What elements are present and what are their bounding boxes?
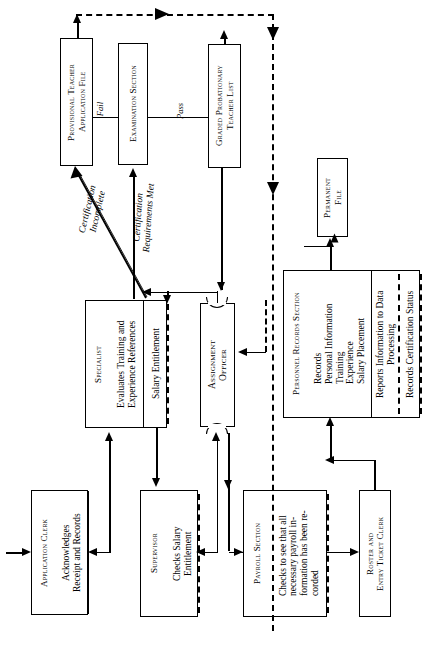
payroll-section-duty: Checks to see that all necessary payroll…	[270, 491, 328, 616]
examination-section-title: Examination Section	[119, 44, 147, 164]
node-personnel-records-section: Personnel Records Section Records Person…	[283, 270, 420, 418]
personnel-records-title: Personnel Records Section	[284, 271, 309, 417]
application-clerk-duty: Acknowledges Receipt and Records	[56, 491, 89, 614]
specialist-title: Specialist	[86, 301, 110, 427]
certification-incomplete-text: Certification Incomplete	[77, 184, 108, 236]
node-roster-and-entry-ticket-clerk: Roster and Entry Ticket Clerk	[359, 490, 391, 617]
edge-assignment-feedback-arrowhead	[142, 288, 151, 296]
personnel-records-duty-certification-status: Records Certification Status	[399, 271, 421, 417]
node-specialist: Specialist Evaluates Training and Experi…	[85, 300, 167, 428]
node-assignment-officer: Assignment Officer	[200, 303, 235, 427]
edge-records-to-permanent-file-vertical	[330, 246, 332, 271]
edge-assignment-to-records-horizontal	[245, 352, 266, 354]
edge-payroll-to-roster	[327, 552, 351, 554]
edge-records-into-permanent-file-arrowhead	[326, 238, 334, 247]
return-bus-arrowhead-mid	[267, 182, 279, 195]
return-bus-top-arrowhead	[155, 8, 169, 20]
edge-specialist-to-examination-arrowhead	[129, 168, 137, 177]
edge-examination-fail-to-provisional	[93, 117, 119, 119]
edge-clerk-to-specialist-arrow-into-clerk	[88, 548, 97, 556]
edge-assignment-down-arrowhead	[224, 480, 232, 489]
application-clerk-title: Application Clerk	[32, 491, 56, 614]
edge-label-fail: Fail	[96, 102, 105, 116]
edge-assignment-feedback-horizontal	[148, 292, 218, 294]
assignment-officer-title: Assignment Officer	[201, 304, 234, 426]
edge-payroll-to-roster-arrowhead	[350, 548, 359, 556]
edge-roster-to-records-horizontal	[330, 460, 375, 462]
edge-clerk-to-specialist-arrowhead	[105, 432, 113, 441]
return-bus-arrowhead-upper	[267, 27, 279, 40]
personnel-records-duty-reports-information: Reports Information to Data Processing	[372, 271, 399, 417]
edge-supervisor-to-assignment-arrowhead	[212, 432, 220, 441]
return-bus-top-horizontal	[76, 14, 274, 16]
edge-graded-list-to-assignment	[221, 168, 223, 290]
node-supervisor: Supervisor Checks Salary Entitlement	[140, 490, 198, 617]
graded-list-title: Graded Probationary Teacher List	[209, 45, 240, 167]
edge-assignment-to-payroll-vertical	[228, 433, 230, 551]
personnel-records-duty-records: Records Personal Information Training Ex…	[309, 271, 372, 417]
edge-clerk-to-specialist-horizontal	[96, 552, 110, 554]
return-bus-right-vertical	[272, 14, 274, 631]
edge-entry-line	[6, 552, 23, 554]
edge-assignment-to-payroll-arrowhead	[234, 548, 243, 556]
edge-roster-to-records-vertical-right	[374, 460, 376, 491]
edge-specialist-to-examination	[133, 177, 135, 299]
node-payroll-section: Payroll Section Checks to see that all n…	[243, 490, 327, 617]
specialist-duty-evaluates-training: Evaluates Training and Experience Refere…	[110, 301, 144, 427]
edge-specialist-to-supervisor-arrowhead	[152, 478, 160, 487]
flowchart-canvas: Provisional Teacher Application File Exa…	[0, 0, 439, 645]
specialist-duty-salary-entitlement: Salary Entitlement	[144, 301, 168, 427]
supervisor-duty: Checks Salary Entitlement	[167, 491, 199, 616]
permanent-file-title: Permanent File	[318, 159, 347, 236]
node-graded-probationary-teacher-list: Graded Probationary Teacher List	[208, 44, 241, 168]
provisional-file-title: Provisional Teacher Application File	[61, 39, 92, 165]
supervisor-title: Supervisor	[141, 491, 167, 616]
edge-specialist-to-supervisor	[156, 428, 158, 480]
edge-supervisor-to-assignment-vertical	[217, 440, 219, 552]
edge-assignment-to-records-dashed-vertical	[265, 300, 267, 352]
edge-clerk-to-specialist-vertical	[109, 440, 111, 553]
edge-assignment-feedback-vertical	[217, 291, 219, 303]
node-examination-section: Examination Section	[118, 43, 148, 165]
edge-roster-to-records-arrowhead	[326, 417, 334, 426]
edge-roster-to-records-vertical-left	[330, 425, 332, 460]
edge-label-certification-requirements-met: Certification Requirements Met	[133, 183, 189, 295]
edge-supervisor-to-assignment-arrow-into-supervisor	[196, 548, 205, 556]
edge-assignment-to-records-arrowhead	[238, 348, 247, 356]
node-provisional-teacher-application-file: Provisional Teacher Application File	[60, 38, 93, 166]
roster-clerk-title: Roster and Entry Ticket Clerk	[360, 491, 390, 616]
edge-assignment-feedback-drop-arrowhead	[163, 295, 171, 304]
node-permanent-file: Permanent File	[317, 158, 348, 237]
edge-graded-list-top-arrowhead	[220, 30, 228, 39]
edge-graded-list-to-assignment-arrowhead	[217, 282, 225, 291]
edge-entry-arrowhead	[22, 548, 31, 556]
edge-examination-pass-to-graded-list	[148, 117, 209, 119]
assignment-officer-notch-bottom-mask	[208, 424, 227, 428]
node-application-clerk: Application Clerk Acknowledges Receipt a…	[31, 490, 88, 615]
payroll-section-title: Payroll Section	[244, 491, 270, 616]
